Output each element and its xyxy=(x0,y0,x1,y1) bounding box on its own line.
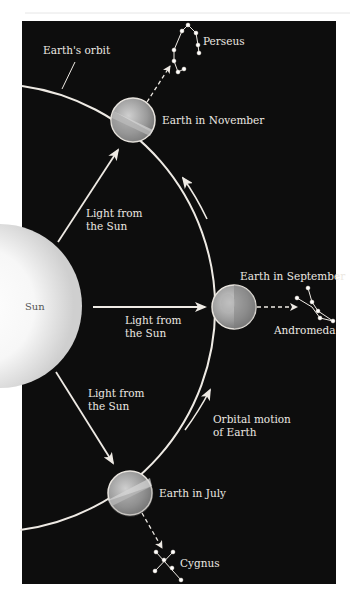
earth-july xyxy=(108,471,153,517)
cygnus-label: Cygnus xyxy=(180,557,220,569)
earth-july-label: Earth in July xyxy=(159,487,226,499)
orbital-motion-label-line1: Orbital motion xyxy=(213,413,291,425)
light-label-upper-line2: the Sun xyxy=(86,220,127,232)
earth-november-label: Earth in November xyxy=(162,114,265,126)
andromeda-label: Andromeda xyxy=(273,324,336,336)
perseus-label: Perseus xyxy=(203,35,245,47)
light-label-middle-line1: Light from xyxy=(125,314,182,326)
light-label-upper-line1: Light from xyxy=(86,207,143,219)
earths-orbit-label: Earth's orbit xyxy=(43,44,111,56)
earth-november xyxy=(111,98,155,142)
light-label-middle-line2: the Sun xyxy=(125,327,166,339)
orbital-motion-label-line2: of Earth xyxy=(213,426,257,438)
earth-september xyxy=(212,285,256,329)
earth-september-label: Earth in September xyxy=(240,270,346,282)
light-label-lower-line2: the Sun xyxy=(88,400,129,412)
sun-label: Sun xyxy=(25,301,45,312)
light-label-lower-line1: Light from xyxy=(88,387,145,399)
earth-orbit-constellation-diagram: Sun Earth's orbit Light from the Sun Lig… xyxy=(0,0,356,594)
